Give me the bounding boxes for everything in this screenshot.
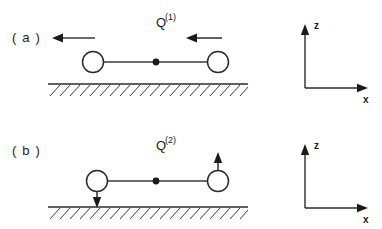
axes-bottom-z-axis: z [301, 140, 319, 208]
panel-a-right-mass [208, 52, 229, 73]
panel-b-right-mass [208, 171, 229, 192]
axes-bottom-x-axis: x [305, 204, 369, 225]
axes-bottom-x-label: x [363, 214, 369, 225]
panel-a-mode-label: Q (1) [156, 12, 176, 30]
panel-a-left-mass [83, 52, 104, 73]
panel-b-center-dot [153, 178, 160, 185]
panel-b-left-mass [87, 171, 108, 192]
panel-b: ( b ) Q (2) [12, 135, 248, 219]
axes-bottom-z-label: z [314, 140, 319, 151]
panel-b-hatching [50, 208, 248, 219]
panel-a-center-dot [153, 59, 160, 66]
axes-top-x-axis: x [305, 84, 369, 105]
axes-top-x-label: x [363, 94, 369, 105]
panel-b-mode-superscript: (2) [165, 135, 176, 145]
panel-a-left-arrow-icon [52, 34, 95, 43]
panel-b-label: ( b ) [12, 143, 41, 158]
panel-a-hatching [50, 85, 248, 96]
axes-top-z-axis: z [301, 20, 319, 88]
axes-top: z x [301, 20, 369, 105]
mode-diagram: ( a ) Q (1) [0, 0, 382, 229]
panel-a: ( a ) Q (1) [12, 12, 248, 96]
panel-b-right-arrow-icon [214, 152, 222, 171]
panel-a-ground [48, 84, 248, 96]
panel-b-ground [48, 207, 248, 219]
panel-b-left-arrow-icon [93, 191, 101, 208]
panel-a-label: ( a ) [12, 30, 41, 45]
axes-top-z-label: z [314, 20, 319, 31]
panel-a-mode-superscript: (1) [165, 12, 176, 22]
panel-b-mode-label: Q (2) [156, 135, 176, 153]
panel-a-right-arrow-icon [186, 34, 222, 43]
axes-bottom: z x [301, 140, 369, 225]
